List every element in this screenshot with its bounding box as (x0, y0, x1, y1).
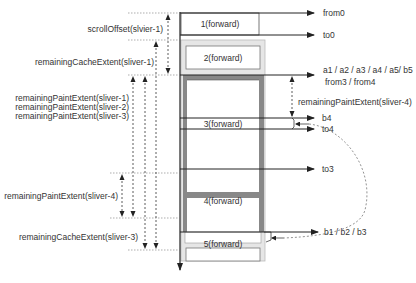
remaining-paint-4-right-label: remainingPaintExtent(sliver-4) (298, 97, 412, 107)
to3-label: to3 (322, 164, 334, 174)
sliver-5-label: 5(forward) (204, 239, 243, 249)
sliver-3-box (187, 80, 259, 192)
sliver-1-label: 1(forward) (201, 19, 240, 29)
sliver-5-box (186, 248, 260, 261)
remaining-cache-3-label: remainingCacheExtent(sliver-3) (19, 232, 138, 242)
a-line1-label: a1 / a2 / a3 / a4 / a5/ b5 (323, 65, 413, 75)
from0-label: from0 (323, 8, 345, 18)
remaining-paint-4-label: remainingPaintExtent(sliver-4) (4, 191, 118, 201)
b4-label: b4 (322, 113, 332, 123)
a-line2-label: from3 / from4 (325, 77, 376, 87)
remaining-cache-1-label: remainingCacheExtent(sliver-1) (35, 57, 154, 67)
to4-label: to4 (322, 124, 334, 134)
sliver-3-label: 3(forward) (204, 119, 243, 129)
to0-label: to0 (323, 30, 335, 40)
remaining-paint-3-label: remainingPaintExtent(sliver-3) (15, 111, 129, 121)
b4-bracket (292, 118, 294, 129)
scroll-offset-label: scrollOffset(slvier-1) (88, 24, 164, 34)
sliver-2-label: 2(forward) (204, 53, 243, 63)
sliver-diagram: 1(forward) 2(forward) 3(forward) 4(forwa… (0, 0, 416, 283)
dashed-curve (284, 124, 367, 238)
sliver-4-label: 4(forward) (204, 196, 243, 206)
b123-label: b1 / b2 / b3 (324, 227, 367, 237)
